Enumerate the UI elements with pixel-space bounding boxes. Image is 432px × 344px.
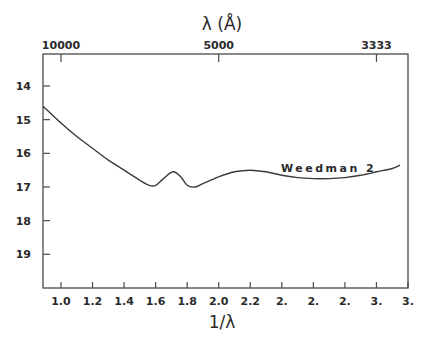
y-tick-label: 17 xyxy=(16,181,31,194)
x-tick-label: 2. xyxy=(339,295,351,308)
x-tick-label: 1.8 xyxy=(177,295,197,308)
y-tick-label: 18 xyxy=(16,215,31,228)
top-axis-title: λ (Å) xyxy=(202,13,242,34)
x-tick-label: 1.2 xyxy=(83,295,103,308)
x-tick-label: 1.4 xyxy=(114,295,134,308)
x-tick-label: 2.2 xyxy=(241,295,261,308)
chart: 1.01.21.41.61.82.02.22.2.2.3.3. 14151617… xyxy=(0,0,432,344)
x-axis-title: 1/λ xyxy=(209,312,236,332)
x-tick-label: 3. xyxy=(402,295,414,308)
x-tick-label: 1.0 xyxy=(51,295,71,308)
top-tick-label: 5000 xyxy=(203,39,234,52)
y-tick-label: 19 xyxy=(16,248,31,261)
x-tick-label: 3. xyxy=(371,295,383,308)
top-tick-label: 10000 xyxy=(42,39,81,52)
x-tick-label: 2. xyxy=(307,295,319,308)
x-tick-label: 2. xyxy=(276,295,288,308)
y-tick-label: 16 xyxy=(16,147,32,160)
x-tick-label: 2.0 xyxy=(209,295,229,308)
y-tick-label: 14 xyxy=(16,80,32,93)
series-label-weedman-2: Weedman 2 xyxy=(281,162,376,175)
top-axis-ticks: 1000050003333 xyxy=(42,39,392,62)
top-tick-label: 3333 xyxy=(361,39,392,52)
y-tick-label: 15 xyxy=(16,114,31,127)
x-axis-ticks: 1.01.21.41.61.82.02.22.2.2.3.3. xyxy=(51,282,414,308)
x-tick-label: 1.6 xyxy=(146,295,166,308)
chart-canvas: 1.01.21.41.61.82.02.22.2.2.3.3. 14151617… xyxy=(0,0,432,344)
